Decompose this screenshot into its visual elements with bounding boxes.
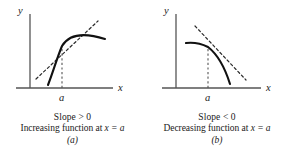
panel-b: y x a Slope < 0 Decreasing function at x… — [145, 0, 289, 159]
panel-letter-a: (a) — [0, 135, 145, 146]
description-var-b: x = a — [251, 123, 271, 133]
x-axis-label-a: x — [117, 82, 123, 93]
point-label-b: a — [205, 92, 210, 103]
description-a: Increasing function at x = a — [0, 123, 145, 134]
x-axis-label-b: x — [265, 82, 271, 93]
slope-text-a: Slope > 0 — [0, 112, 145, 123]
description-b: Decreasing function at x = a — [145, 123, 289, 134]
figure-root: y x a Slope > 0 Increasing function at x… — [0, 0, 289, 159]
caption-a: Slope > 0 Increasing function at x = a (… — [0, 112, 145, 147]
caption-b: Slope < 0 Decreasing function at x = a (… — [145, 112, 289, 147]
tangent-line-b — [195, 26, 246, 80]
y-axis-label-b: y — [163, 5, 169, 16]
panel-letter-b: (b) — [145, 135, 289, 146]
description-prefix-b: Decreasing function at — [163, 123, 250, 133]
y-axis-label-a: y — [17, 5, 23, 16]
point-label-a: a — [59, 92, 64, 103]
panel-a: y x a Slope > 0 Increasing function at x… — [0, 0, 145, 159]
curve-a — [48, 35, 105, 85]
plot-a: y x a — [0, 0, 145, 112]
slope-text-b: Slope < 0 — [145, 112, 289, 123]
tangent-line-a — [36, 21, 98, 79]
description-var-a: x = a — [105, 123, 125, 133]
plot-b: y x a — [145, 0, 289, 112]
description-prefix-a: Increasing function at — [21, 123, 105, 133]
